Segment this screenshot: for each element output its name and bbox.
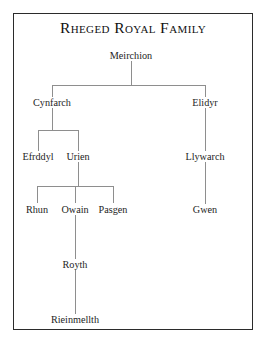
node-owain: Owain [61, 204, 88, 216]
page-title: Rheged Royal Family [13, 19, 253, 37]
node-pasgen: Pasgen [99, 204, 128, 216]
connector-urien-stem [78, 162, 79, 186]
connector-cynfarch-bar [38, 130, 79, 131]
connector-to-cynfarch [52, 85, 53, 97]
connector-cynfarch-stem [52, 108, 53, 130]
node-rieinmellth: Rieinmellth [51, 314, 99, 326]
node-royth: Royth [63, 259, 88, 271]
connector-to-owain [75, 186, 76, 203]
connector-to-efrddyl [38, 130, 39, 151]
connector-llywarch-gwen [205, 162, 206, 204]
connector-to-urien [78, 130, 79, 151]
connector-elidyr-llywarch [205, 108, 206, 151]
node-urien: Urien [66, 151, 89, 163]
family-tree-page: Rheged Royal Family Meirchion Cynfarch E… [0, 0, 267, 347]
node-elidyr: Elidyr [192, 97, 217, 109]
node-efrddyl: Efrddyl [22, 151, 53, 163]
node-llywarch: Llywarch [185, 151, 224, 163]
connector-owain-royth [75, 215, 76, 259]
node-cynfarch: Cynfarch [33, 97, 71, 109]
connector-to-elidyr [205, 85, 206, 97]
connector-to-pasgen [113, 186, 114, 203]
node-gwen: Gwen [193, 204, 217, 216]
connector-meirchion-stem [131, 61, 132, 85]
connector-to-rhun [37, 186, 38, 203]
node-rhun: Rhun [26, 204, 48, 216]
connector-royth-rieinmellth [75, 270, 76, 314]
connector-meirchion-bar [52, 85, 206, 86]
node-meirchion: Meirchion [110, 50, 152, 62]
